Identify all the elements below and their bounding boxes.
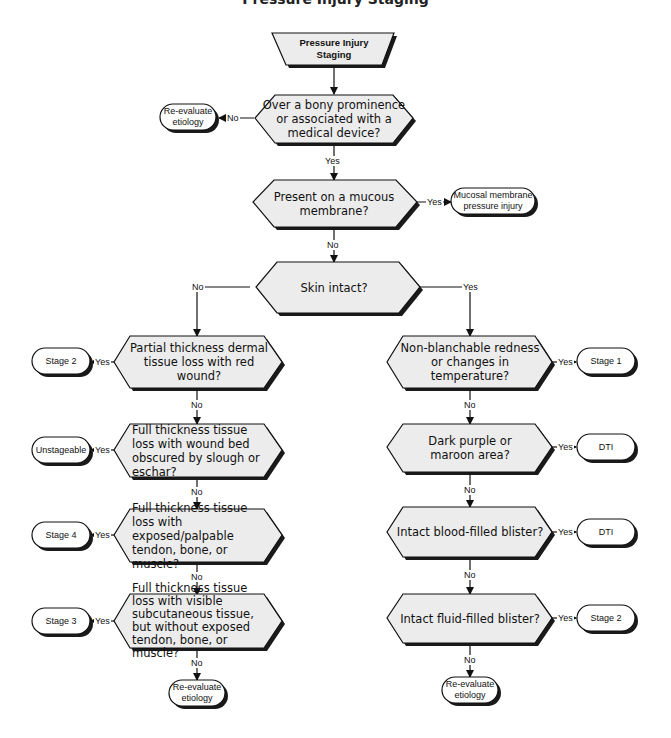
edge-label-yes: Yes	[324, 156, 341, 166]
edge-label-no: No	[463, 400, 477, 410]
edge-label-no: No	[226, 113, 240, 123]
edge-label-no: No	[190, 400, 204, 410]
decision-dark-purple: Dark purple or maroon area?	[405, 424, 535, 472]
decision-skin-intact: Skin intact?	[262, 262, 406, 313]
edge-label-no: No	[190, 572, 204, 582]
edge-label-yes: Yes	[426, 197, 443, 207]
terminal-reevaluate-top: Re-evaluate etiology	[162, 104, 214, 130]
decision-bony-prominence: Over a bony prominence or associated wit…	[262, 95, 406, 143]
terminal-stage3: Stage 3	[32, 608, 90, 634]
decision-exposed-tissue: Full thickness tissue loss with exposed/…	[132, 509, 272, 562]
edge-label-no: No	[463, 570, 477, 580]
terminal-unstageable: Unstageable	[32, 437, 90, 463]
edge-label-yes: Yes	[462, 282, 479, 292]
edge-label-yes: Yes	[94, 445, 111, 455]
decision-blood-blister: Intact blood-filled blister?	[395, 507, 545, 557]
edge-label-no: No	[463, 655, 477, 665]
edge-label-no: No	[190, 658, 204, 668]
decision-non-blanchable: Non-blanchable redness or changes in tem…	[395, 336, 545, 388]
terminal-stage2-left: Stage 2	[32, 348, 90, 374]
decision-slough-eschar: Full thickness tissue loss with wound be…	[132, 424, 272, 477]
edge-label-yes: Yes	[557, 442, 574, 452]
decision-mucous-membrane: Present on a mucous membrane?	[262, 180, 406, 227]
terminal-dti-1: DTI	[577, 434, 635, 460]
flowchart: Pressure Injury Staging	[0, 0, 671, 738]
terminal-reevaluate-right: Re-evaluate etiology	[444, 677, 496, 703]
edge-label-no: No	[190, 487, 204, 497]
terminal-reevaluate-left: Re-evaluate etiology	[171, 680, 223, 706]
edge-label-yes: Yes	[557, 357, 574, 367]
edge-label-yes: Yes	[94, 357, 111, 367]
edge-label-yes: Yes	[557, 613, 574, 623]
terminal-stage4: Stage 4	[32, 522, 90, 548]
terminal-stage1: Stage 1	[577, 348, 635, 374]
terminal-dti-2: DTI	[577, 519, 635, 545]
decision-fluid-blister: Intact fluid-filled blister?	[395, 594, 545, 643]
decision-partial-thickness: Partial thickness dermal tissue loss wit…	[122, 336, 276, 388]
edge-label-yes: Yes	[94, 616, 111, 626]
edge-label-no: No	[326, 240, 340, 250]
edge-label-no: No	[191, 282, 205, 292]
edge-label-yes: Yes	[557, 527, 574, 537]
start-node: Pressure Injury Staging	[282, 35, 386, 63]
terminal-mucosal-injury: Mucosal membrane pressure injury	[453, 188, 533, 214]
terminal-stage2-right: Stage 2	[577, 605, 635, 631]
edge-label-no: No	[463, 485, 477, 495]
edge-label-yes: Yes	[94, 530, 111, 540]
decision-subcutaneous: Full thickness tissue loss with visible …	[132, 594, 272, 648]
